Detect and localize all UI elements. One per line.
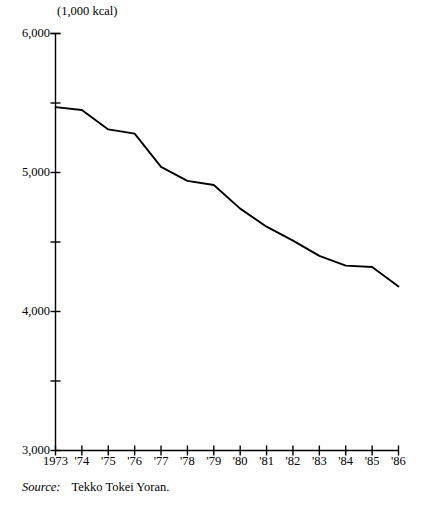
chart-figure: (1,000 kcal) 3,0004,0005,0006,000 1973'7… (0, 0, 421, 510)
data-line-series (56, 107, 399, 286)
chart-tick-marks (51, 34, 399, 456)
source-label: Source: (22, 480, 60, 494)
source-text: Tekko Tokei Yoran. (71, 480, 169, 494)
line-chart-plot (0, 0, 421, 510)
y-tick-label: 6,000 (2, 27, 50, 40)
source-note: Source:Tekko Tokei Yoran. (22, 480, 169, 495)
x-tick-label: '86 (379, 455, 419, 468)
chart-axes (56, 34, 399, 451)
y-tick-label: 5,000 (2, 166, 50, 179)
y-tick-label: 4,000 (2, 305, 50, 318)
